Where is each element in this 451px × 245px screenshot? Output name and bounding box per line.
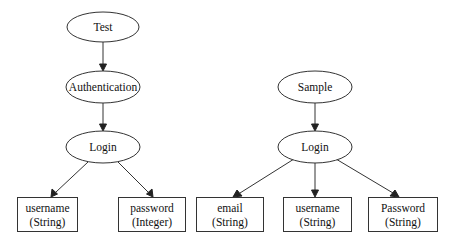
node-login-right[interactable]: Login	[278, 131, 352, 163]
edge-login-password	[118, 162, 153, 197]
edge-test-authentication	[100, 42, 107, 71]
edge-login-password-right	[336, 159, 399, 197]
node-username-left[interactable]: username (String)	[18, 198, 78, 232]
arrowhead-icon	[312, 124, 319, 131]
arrowhead-icon	[100, 64, 107, 71]
edge-authentication-login	[100, 103, 107, 131]
node-type-label: (String)	[300, 216, 336, 229]
arrowhead-icon	[233, 190, 242, 197]
arrowhead-icon	[100, 124, 107, 131]
node-sample[interactable]: Sample	[278, 71, 352, 103]
node-label: Authentication	[69, 81, 138, 93]
arrowhead-icon	[390, 190, 399, 197]
arrowhead-icon	[51, 189, 58, 197]
node-label: Login	[301, 141, 329, 154]
node-authentication[interactable]: Authentication	[66, 71, 140, 103]
node-username-right[interactable]: username (String)	[284, 198, 352, 232]
node-label: Test	[94, 21, 114, 33]
node-type-label: (String)	[212, 216, 248, 229]
node-password-left[interactable]: password (Integer)	[119, 198, 186, 232]
tree-diagram: Test Authentication Login username (Stri…	[0, 0, 451, 245]
node-type-label: (String)	[30, 216, 66, 229]
edge-login-username-right	[312, 163, 319, 197]
node-password-right[interactable]: Password (String)	[369, 198, 438, 232]
edge-login-email	[233, 159, 294, 197]
edge-sample-login	[312, 103, 319, 131]
node-label: Sample	[298, 81, 333, 94]
node-type-label: (String)	[385, 216, 421, 229]
node-login-left[interactable]: Login	[66, 131, 140, 163]
arrowhead-icon	[147, 189, 154, 197]
node-label: username	[25, 202, 69, 214]
edge-login-username	[51, 162, 88, 197]
node-label: Password	[381, 202, 425, 214]
node-label: email	[217, 202, 243, 214]
node-test[interactable]: Test	[67, 12, 139, 42]
node-email-right[interactable]: email (String)	[197, 198, 264, 232]
arrowhead-icon	[312, 190, 319, 197]
node-label: username	[295, 202, 339, 214]
node-type-label: (Integer)	[132, 216, 172, 229]
node-label: password	[130, 202, 174, 215]
node-label: Login	[89, 141, 117, 154]
